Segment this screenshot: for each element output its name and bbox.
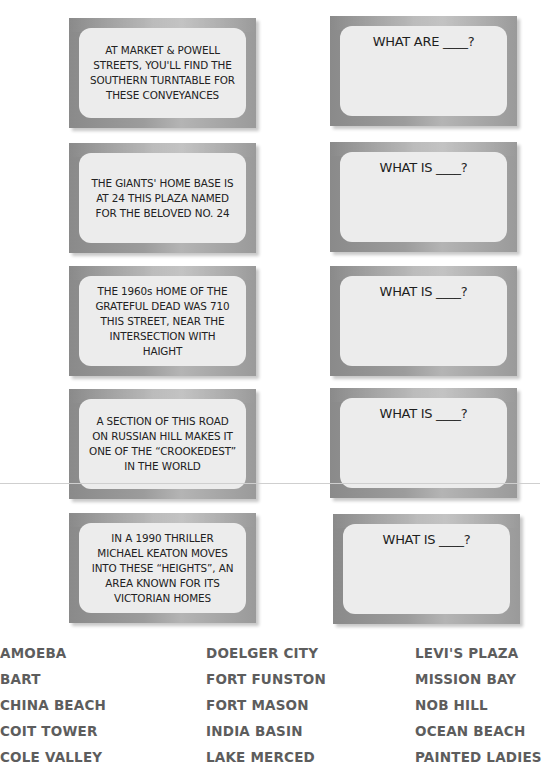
word-bank-column-3: LEVI'S PLAZA MISSION BAY NOB HILL OCEAN …	[415, 640, 542, 764]
word-bank-item: FORT MASON	[206, 692, 326, 718]
divider-line	[0, 483, 540, 484]
answer-panel[interactable]: WHAT IS ____?	[340, 398, 507, 488]
word-bank-item: DOELGER CITY	[206, 640, 326, 666]
answer-card-2: WHAT IS ____?	[330, 142, 517, 252]
word-bank-item: NOB HILL	[415, 692, 542, 718]
word-bank-item: INDIA BASIN	[206, 718, 326, 744]
clue-text: AT MARKET & POWELL STREETS, YOU'LL FIND …	[79, 43, 246, 103]
clue-text: IN A 1990 THRILLER MICHAEL KEATON MOVES …	[79, 531, 246, 606]
word-bank-item: LEVI'S PLAZA	[415, 640, 542, 666]
word-bank-item: AMOEBA	[0, 640, 106, 666]
clue-text: A SECTION OF THIS ROAD ON RUSSIAN HILL M…	[79, 414, 246, 474]
clue-card-5: IN A 1990 THRILLER MICHAEL KEATON MOVES …	[69, 513, 256, 623]
answer-prompt: WHAT IS ____?	[380, 160, 468, 175]
clue-card-2: THE GIANTS' HOME BASE IS AT 24 THIS PLAZ…	[69, 143, 256, 253]
clue-card-1: AT MARKET & POWELL STREETS, YOU'LL FIND …	[69, 18, 256, 128]
answer-panel[interactable]: WHAT ARE ____?	[340, 26, 507, 116]
clue-text: THE 1960s HOME OF THE GRATEFUL DEAD WAS …	[79, 284, 246, 359]
answer-panel[interactable]: WHAT IS ____?	[343, 524, 510, 614]
answer-card-4: WHAT IS ____?	[330, 388, 517, 498]
word-bank-item: BART	[0, 666, 106, 692]
clue-card-3: THE 1960s HOME OF THE GRATEFUL DEAD WAS …	[69, 266, 256, 376]
answer-panel[interactable]: WHAT IS ____?	[340, 152, 507, 242]
word-bank-item: OCEAN BEACH	[415, 718, 542, 744]
word-bank-item: FORT FUNSTON	[206, 666, 326, 692]
answer-card-5: WHAT IS ____?	[333, 514, 520, 624]
answer-prompt: WHAT ARE ____?	[373, 34, 475, 49]
word-bank-item: COLE VALLEY	[0, 744, 106, 764]
word-bank-column-2: DOELGER CITY FORT FUNSTON FORT MASON IND…	[206, 640, 326, 764]
clue-panel: IN A 1990 THRILLER MICHAEL KEATON MOVES …	[79, 523, 246, 613]
word-bank-item: MISSION BAY	[415, 666, 542, 692]
answer-prompt: WHAT IS ____?	[380, 284, 468, 299]
clue-text: THE GIANTS' HOME BASE IS AT 24 THIS PLAZ…	[79, 176, 246, 221]
clue-panel: THE GIANTS' HOME BASE IS AT 24 THIS PLAZ…	[79, 153, 246, 243]
clue-panel: A SECTION OF THIS ROAD ON RUSSIAN HILL M…	[79, 399, 246, 489]
answer-prompt: WHAT IS ____?	[380, 406, 468, 421]
word-bank-item: LAKE MERCED	[206, 744, 326, 764]
word-bank-column-1: AMOEBA BART CHINA BEACH COIT TOWER COLE …	[0, 640, 106, 764]
word-bank-item: PAINTED LADIES	[415, 744, 542, 764]
answer-card-3: WHAT IS ____?	[330, 266, 517, 376]
clue-panel: THE 1960s HOME OF THE GRATEFUL DEAD WAS …	[79, 276, 246, 366]
word-bank-item: COIT TOWER	[0, 718, 106, 744]
answer-card-1: WHAT ARE ____?	[330, 16, 517, 126]
answer-prompt: WHAT IS ____?	[383, 532, 471, 547]
word-bank-item: CHINA BEACH	[0, 692, 106, 718]
clue-panel: AT MARKET & POWELL STREETS, YOU'LL FIND …	[79, 28, 246, 118]
answer-panel[interactable]: WHAT IS ____?	[340, 276, 507, 366]
